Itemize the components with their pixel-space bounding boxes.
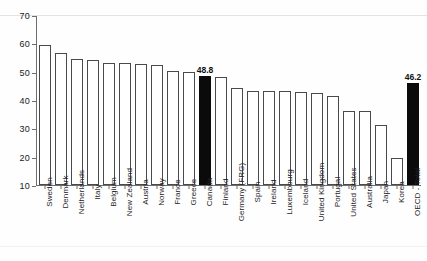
- x-axis-category: OECD - Total: [405, 190, 421, 260]
- bar[interactable]: [135, 64, 147, 185]
- bar[interactable]: [71, 59, 83, 185]
- x-axis-category: Portugal: [325, 190, 341, 260]
- y-tick-label: 70: [20, 11, 30, 21]
- y-tick-mark: [32, 101, 36, 102]
- bar-slot: [293, 16, 309, 185]
- x-axis-category: New Zealand: [117, 190, 133, 260]
- bar-slot: [69, 16, 85, 185]
- x-axis-category: Netherlands: [69, 190, 85, 260]
- plot-area: 10203040506070 48.846.2: [36, 16, 421, 186]
- bar[interactable]: [215, 77, 227, 185]
- y-tick-mark: [32, 158, 36, 159]
- bar-slot: 46.2: [405, 16, 421, 185]
- y-tick-label: 10: [20, 181, 30, 191]
- y-tick-mark: [32, 16, 36, 17]
- x-axis-category: Norway: [149, 190, 165, 260]
- bar[interactable]: [103, 63, 115, 185]
- x-axis-category: Canada: [197, 190, 213, 260]
- x-axis-category: Denmark: [53, 190, 69, 260]
- x-axis-category: France: [165, 190, 181, 260]
- bar-value-label: 46.2: [405, 72, 422, 82]
- x-axis-category: United Kingdom: [309, 190, 325, 260]
- x-axis-category: Spain: [245, 190, 261, 260]
- bar[interactable]: [375, 125, 387, 185]
- bar-slot: [229, 16, 245, 185]
- bar[interactable]: [151, 65, 163, 185]
- bar-slot: [357, 16, 373, 185]
- bar-slot: [341, 16, 357, 185]
- bar-slot: [101, 16, 117, 185]
- bar-slot: [277, 16, 293, 185]
- bar-slot: [325, 16, 341, 185]
- x-axis-category: Australia: [357, 190, 373, 260]
- y-tick-label: 40: [20, 96, 30, 106]
- bar-slot: [85, 16, 101, 185]
- bar[interactable]: [263, 91, 275, 185]
- bar[interactable]: [119, 63, 131, 185]
- bar-slot: 48.8: [197, 16, 213, 185]
- y-tick-mark: [32, 129, 36, 130]
- bar-slot: [245, 16, 261, 185]
- bar[interactable]: [39, 45, 51, 185]
- x-axis-category: Sweden: [37, 190, 53, 260]
- bar-value-label: 48.8: [197, 65, 214, 75]
- x-axis-category: Germany (FRG): [229, 190, 245, 260]
- bar-chart: 10203040506070 48.846.2 SwedenDenmarkNet…: [0, 0, 427, 261]
- bar[interactable]: [87, 60, 99, 185]
- bar-slot: [309, 16, 325, 185]
- bar-slot: [117, 16, 133, 185]
- x-axis-category: Italy: [85, 190, 101, 260]
- bar-slot: [37, 16, 53, 185]
- x-axis-category: Greece: [181, 190, 197, 260]
- x-axis-category: Belgium: [101, 190, 117, 260]
- x-axis-category: Iceland: [293, 190, 309, 260]
- x-axis-category-labels: SwedenDenmarkNetherlandsItalyBelgiumNew …: [37, 190, 421, 260]
- bar-slot: [389, 16, 405, 185]
- bar-slot: [165, 16, 181, 185]
- x-axis-category: Ireland: [261, 190, 277, 260]
- y-tick-label: 60: [20, 39, 30, 49]
- x-axis-category: Finland: [213, 190, 229, 260]
- y-tick-label: 50: [20, 68, 30, 78]
- bar-slot: [373, 16, 389, 185]
- x-axis-category: Austria: [133, 190, 149, 260]
- bar[interactable]: [359, 111, 371, 185]
- bar[interactable]: [55, 53, 67, 185]
- x-axis-category: Japan: [373, 190, 389, 260]
- bar-slot: [261, 16, 277, 185]
- y-tick-label: 30: [20, 124, 30, 134]
- bar-slot: [181, 16, 197, 185]
- y-tick-mark: [32, 44, 36, 45]
- bar[interactable]: [327, 96, 339, 185]
- bar[interactable]: [167, 71, 179, 185]
- bar[interactable]: [295, 92, 307, 186]
- y-tick-label: 20: [20, 153, 30, 163]
- x-axis-category: Luxembourg: [277, 190, 293, 260]
- bar[interactable]: 48.8: [199, 76, 211, 185]
- bar[interactable]: [247, 91, 259, 185]
- bar-slot: [53, 16, 69, 185]
- bar[interactable]: [183, 72, 195, 185]
- y-tick-mark: [32, 186, 36, 187]
- x-axis-category: Korea: [389, 190, 405, 260]
- x-axis-category-label: OECD - Total: [413, 168, 422, 216]
- y-tick-mark: [32, 73, 36, 74]
- y-tick: 10: [36, 186, 37, 187]
- bar-slot: [133, 16, 149, 185]
- bar-series: 48.846.2: [37, 16, 421, 185]
- bar-slot: [213, 16, 229, 185]
- bar-slot: [149, 16, 165, 185]
- x-axis-category: United States: [341, 190, 357, 260]
